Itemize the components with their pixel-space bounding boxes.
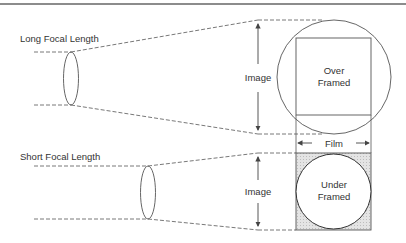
short-focal-group: Short Focal Length Image Under Framed: [20, 151, 371, 230]
over-framed-line1: Over: [324, 65, 345, 76]
short-image-label: Image: [245, 186, 271, 197]
long-focal-label: Long Focal Length: [20, 33, 99, 44]
long-image-label: Image: [245, 72, 271, 83]
short-lens-icon: [141, 166, 156, 219]
focal-length-diagram: Long Focal Length Image Over Framed Film…: [0, 0, 406, 243]
film-label: Film: [325, 138, 343, 149]
under-framed-line2: Framed: [318, 191, 351, 202]
over-framed-line2: Framed: [318, 77, 351, 88]
long-focal-group: Long Focal Length Image Over Framed: [20, 20, 391, 134]
short-focal-label: Short Focal Length: [20, 151, 100, 162]
under-framed-line1: Under: [321, 179, 347, 190]
long-lens-icon: [64, 52, 79, 105]
